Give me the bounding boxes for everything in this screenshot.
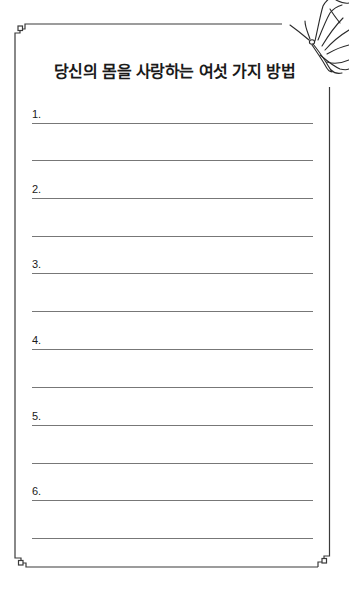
corner-ornament-top-left-icon	[15, 24, 282, 555]
answer-line-2b[interactable]	[32, 236, 313, 237]
item-number: 6.	[32, 485, 41, 497]
item-number: 3.	[32, 258, 41, 270]
worksheet-page: 당신의 몸을 사랑하는 여섯 가지 방법 1. 2. 3. 4. 5. 6.	[0, 0, 349, 590]
item-number: 4.	[32, 334, 41, 346]
answer-line-3a[interactable]	[32, 273, 313, 274]
item-number: 5.	[32, 410, 41, 422]
decorative-border	[0, 0, 349, 590]
answer-line-2a[interactable]	[32, 198, 313, 199]
item-number: 1.	[32, 108, 41, 120]
answer-line-1a[interactable]	[32, 123, 313, 124]
worksheet-title: 당신의 몸을 사랑하는 여섯 가지 방법	[0, 58, 349, 82]
answer-line-4b[interactable]	[32, 387, 313, 388]
item-number: 2.	[32, 183, 41, 195]
answer-line-6a[interactable]	[32, 500, 313, 501]
answer-line-5a[interactable]	[32, 425, 313, 426]
corner-ornament-bottom-right-icon	[318, 87, 330, 567]
answer-line-3b[interactable]	[32, 311, 313, 312]
answer-line-1b[interactable]	[32, 160, 313, 161]
answer-line-4a[interactable]	[32, 349, 313, 350]
answer-line-5b[interactable]	[32, 463, 313, 464]
corner-ornament-bottom-left-icon	[15, 555, 318, 567]
answer-line-6b[interactable]	[32, 538, 313, 539]
